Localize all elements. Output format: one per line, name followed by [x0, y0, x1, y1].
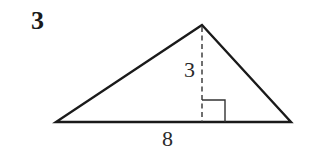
triangle-svg — [0, 0, 316, 155]
problem-number: 3 — [31, 8, 44, 34]
triangle-outline — [56, 25, 291, 122]
base-label: 8 — [162, 128, 173, 150]
triangle-diagram: 3 3 8 — [0, 0, 316, 155]
height-label: 3 — [184, 59, 195, 81]
right-angle-marker — [202, 100, 225, 122]
